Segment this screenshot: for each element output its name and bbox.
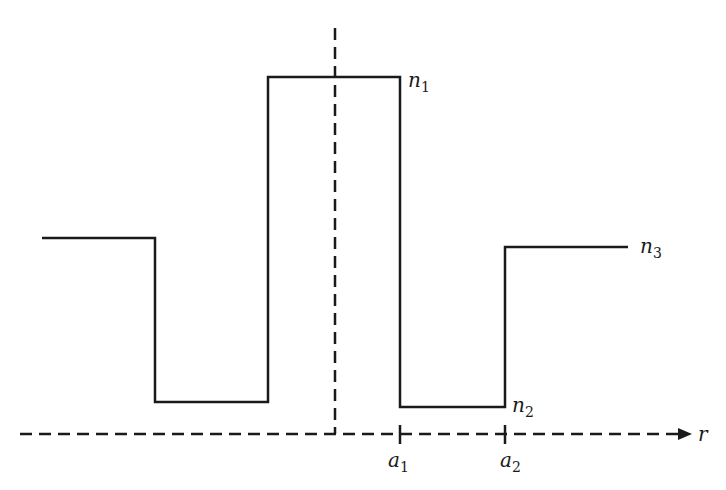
label-n3: n3 — [640, 234, 662, 261]
label-r-axis: r — [698, 422, 709, 446]
label-n2: n2 — [512, 393, 534, 420]
r-axis-arrow-icon — [678, 428, 692, 440]
label-n1: n1 — [408, 68, 430, 95]
label-a2: a2 — [500, 448, 521, 475]
index-profile-diagram: n1 n2 n3 a1 a2 r — [0, 0, 726, 490]
label-a1: a1 — [388, 448, 409, 475]
